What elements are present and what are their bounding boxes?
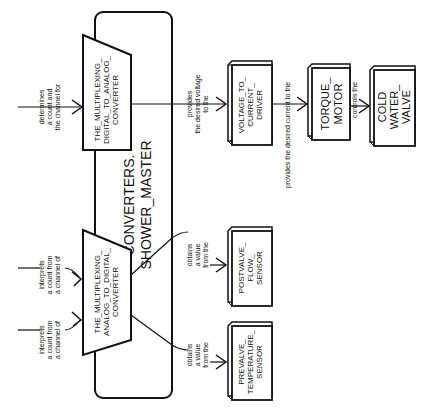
container-title-line2: SHOWER_MASTER (138, 140, 154, 269)
svg-text:a count from: a count from (46, 255, 53, 294)
svg-text:a channel of: a channel of (54, 256, 61, 294)
svg-text:FLOW_: FLOW_ (246, 254, 255, 282)
svg-text:TORQUE_: TORQUE_ (319, 77, 331, 131)
voltage-driver-box[interactable]: VOLTAGE_TO_ CURRENT_ DRIVER (228, 61, 272, 145)
svg-text:THE_MULTIPLEXING_: THE_MULTIPLEXING_ (93, 58, 102, 142)
container-title-line1: CONVERTERS. (121, 155, 137, 256)
svg-text:a count from: a count from (46, 320, 53, 359)
arrow-head-icon (72, 312, 81, 326)
adc-input-1-label: interprets a count from a channel of (38, 255, 61, 294)
svg-text:determines: determines (38, 89, 45, 124)
svg-text:the channel for: the channel for (54, 83, 61, 130)
svg-text:a value: a value (194, 344, 201, 367)
svg-text:to the: to the (202, 95, 209, 113)
svg-text:PREVALVE_: PREVALVE_ (237, 339, 246, 385)
svg-text:a channel of: a channel of (54, 321, 61, 359)
svg-text:COLD: COLD (376, 92, 388, 123)
svg-text:THE_MULTIPLEXING_: THE_MULTIPLEXING_ (93, 250, 102, 334)
svg-text:the desired voltage: the desired voltage (194, 74, 202, 133)
svg-text:VOLTAGE_TO_: VOLTAGE_TO_ (237, 76, 246, 133)
svg-text:controls the: controls the (351, 82, 358, 118)
svg-text:MOTOR: MOTOR (332, 84, 344, 125)
svg-text:DIGITAL_TO_ANALOG_: DIGITAL_TO_ANALOG_ (102, 55, 111, 144)
prevalve-temperature-sensor-box[interactable]: PREVALVE_ TEMPERATURE_ SENSOR (228, 322, 272, 400)
dac-input-label: determines a count and the channel for (38, 83, 61, 130)
svg-text:CONVERTER: CONVERTER (111, 75, 120, 125)
svg-text:interprets: interprets (38, 260, 46, 290)
svg-text:SENSOR: SENSOR (255, 345, 264, 379)
svg-text:obtains: obtains (186, 343, 193, 366)
svg-text:interprets: interprets (38, 325, 46, 355)
svg-text:CONVERTER: CONVERTER (111, 267, 120, 317)
diagram-canvas: CONVERTERS. SHOWER_MASTER THE_MULTIPLEXI… (0, 0, 440, 413)
svg-text:ANALOG_TO_DIGITAL_: ANALOG_TO_DIGITAL_ (102, 247, 111, 336)
from-prevalve-label: obtains a value from the (186, 342, 209, 368)
svg-text:a count and: a count and (46, 89, 53, 126)
to-voltage-label: provides the desired voltage to the (186, 74, 209, 133)
torque-motor-box[interactable]: TORQUE_ MOTOR (308, 64, 350, 140)
svg-text:provides: provides (186, 90, 194, 117)
svg-text:DRIVER: DRIVER (255, 90, 264, 120)
svg-text:from the: from the (202, 242, 209, 268)
svg-text:obtains: obtains (186, 243, 193, 266)
svg-text:provides the desired current t: provides the desired current to the (284, 82, 292, 188)
postvalve-flow-sensor-box[interactable]: POSTVALVE_ FLOW_ SENSOR (228, 227, 272, 306)
cold-water-valve-box[interactable]: COLD WATER_ VALVE (370, 66, 415, 146)
to-torque-label: provides the desired current to the (284, 82, 292, 188)
svg-text:VALVE: VALVE (400, 90, 412, 124)
svg-text:CURRENT_: CURRENT_ (246, 83, 255, 127)
svg-text:TEMPERATURE_: TEMPERATURE_ (246, 329, 255, 394)
svg-text:SENSOR: SENSOR (255, 251, 264, 285)
svg-text:a value: a value (194, 244, 201, 267)
adc-input-2-label: interprets a count from a channel of (38, 320, 61, 359)
from-prevalve-edge (131, 315, 188, 350)
svg-text:WATER_: WATER_ (388, 84, 400, 129)
to-valve-label: controls the (351, 82, 358, 118)
svg-text:POSTVALVE_: POSTVALVE_ (237, 242, 246, 293)
svg-text:from the: from the (202, 342, 209, 368)
from-postvalve-label: obtains a value from the (186, 242, 209, 268)
